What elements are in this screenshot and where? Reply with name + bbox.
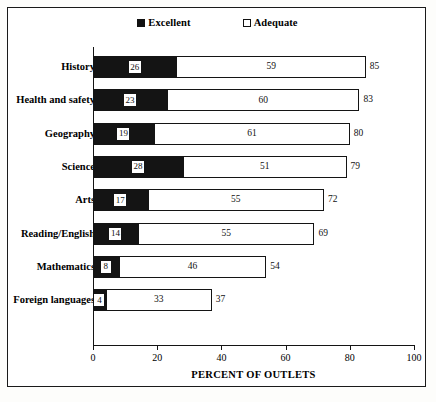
bar-value-total: 85 [370, 62, 380, 72]
bar-value-total: 79 [351, 162, 361, 172]
category-label: Arts [0, 195, 95, 206]
bar-value-total: 80 [354, 129, 364, 139]
bar-segment-adequate[interactable]: 55 [148, 189, 325, 211]
bar-segment-adequate[interactable]: 61 [154, 123, 350, 145]
bar-value-adequate: 60 [258, 96, 268, 106]
x-axis-tick [157, 345, 158, 350]
x-axis-line [93, 345, 414, 346]
category-label: Geography [0, 129, 95, 140]
bar-value-adequate: 55 [221, 229, 231, 239]
bar-row[interactable]: 236083 [93, 89, 359, 111]
bar-value-excellent: 17 [113, 193, 127, 207]
bar-segment-adequate[interactable]: 60 [167, 89, 360, 111]
bar-value-excellent: 4 [93, 293, 105, 307]
bar-value-adequate: 46 [188, 262, 198, 272]
bar-row[interactable]: 265985 [93, 56, 366, 78]
bar-value-total: 83 [363, 96, 373, 106]
category-label: Mathematics [0, 262, 95, 273]
bar-value-excellent: 26 [128, 60, 142, 74]
x-axis-tick [286, 345, 287, 350]
category-label: Health and safety [0, 95, 95, 106]
bar-row[interactable]: 43337 [93, 289, 212, 311]
x-axis-tick-label: 60 [281, 353, 291, 363]
bar-row[interactable]: 84654 [93, 256, 266, 278]
bar-segment-adequate[interactable]: 33 [106, 289, 212, 311]
bar-segment-adequate[interactable]: 59 [176, 56, 365, 78]
x-axis-tick-label: 20 [152, 353, 162, 363]
bar-value-excellent: 8 [100, 260, 112, 274]
bar-value-excellent: 23 [123, 93, 137, 107]
bar-segment-adequate[interactable]: 51 [183, 156, 347, 178]
x-axis-tick [350, 345, 351, 350]
bar-value-adequate: 33 [154, 295, 164, 305]
x-axis-tick-label: 40 [216, 353, 226, 363]
bar-row[interactable]: 145569 [93, 223, 314, 245]
bar-value-excellent: 28 [131, 160, 145, 174]
bar-value-excellent: 14 [108, 227, 122, 241]
bar-value-total: 37 [216, 295, 226, 305]
x-axis-tick [93, 345, 94, 350]
bar-segment-adequate[interactable]: 46 [119, 256, 267, 278]
x-axis-tick-label: 0 [91, 353, 96, 363]
chart-figure: Excellent Adequate 020406080100 HistoryH… [0, 0, 436, 402]
bar-value-adequate: 61 [247, 129, 257, 139]
chart-frame: Excellent Adequate 020406080100 HistoryH… [7, 7, 426, 387]
x-axis-tick-label: 80 [345, 353, 355, 363]
plot-area: 020406080100 HistoryHealth and safetyGeo… [8, 8, 427, 388]
bar-row[interactable]: 196180 [93, 123, 350, 145]
category-label: Foreign languages [0, 295, 95, 306]
bar-segment-adequate[interactable]: 55 [138, 223, 315, 245]
x-axis-tick [414, 345, 415, 350]
bar-value-total: 72 [328, 195, 338, 205]
bar-value-adequate: 59 [266, 62, 276, 72]
bar-value-adequate: 55 [231, 195, 241, 205]
bar-value-adequate: 51 [260, 162, 270, 172]
x-axis-tick [221, 345, 222, 350]
x-axis-tick-label: 100 [407, 353, 422, 363]
bar-value-total: 54 [270, 262, 280, 272]
category-label: Science [0, 162, 95, 173]
bar-value-excellent: 19 [116, 127, 130, 141]
bar-row[interactable]: 285179 [93, 156, 347, 178]
bar-row[interactable]: 175572 [93, 189, 324, 211]
category-label: Reading/English [0, 229, 95, 240]
category-label: History [0, 62, 95, 73]
x-axis-title: PERCENT OF OUTLETS [93, 369, 414, 380]
bar-value-total: 69 [318, 229, 328, 239]
